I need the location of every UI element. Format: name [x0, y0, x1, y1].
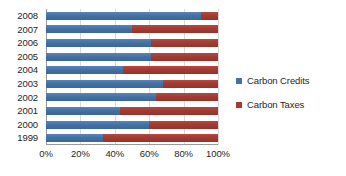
y-axis-tick-label: 2003: [0, 77, 42, 91]
bar-segment-carbon-credits[interactable]: [46, 107, 120, 115]
bar-segment-carbon-taxes[interactable]: [149, 121, 218, 129]
legend-swatch-icon: [236, 102, 242, 108]
y-axis-tick-label: 2000: [0, 118, 42, 132]
plot-area: [46, 9, 218, 145]
bar-segment-carbon-taxes[interactable]: [151, 39, 218, 47]
bar-track: [46, 121, 218, 129]
bar-track: [46, 66, 218, 74]
bar-row[interactable]: [46, 91, 218, 105]
bar-track: [46, 107, 218, 115]
bar-row[interactable]: [46, 131, 218, 145]
bar-segment-carbon-credits[interactable]: [46, 39, 151, 47]
bar-track: [46, 80, 218, 88]
y-axis-category-labels: 2008200720062005200420032002200120001999: [0, 9, 42, 145]
chart-legend: Carbon CreditsCarbon Taxes: [236, 75, 310, 110]
bar-track: [46, 93, 218, 101]
bar-track: [46, 12, 218, 20]
bar-segment-carbon-taxes[interactable]: [103, 134, 218, 142]
bar-row[interactable]: [46, 23, 218, 37]
y-axis-tick-label: 2004: [0, 63, 42, 77]
bar-row[interactable]: [46, 9, 218, 23]
y-axis-tick-label: 2002: [0, 91, 42, 105]
bar-segment-carbon-taxes[interactable]: [156, 93, 218, 101]
bar-segment-carbon-credits[interactable]: [46, 121, 149, 129]
x-axis-tick-label: 0%: [39, 148, 53, 159]
bar-segment-carbon-taxes[interactable]: [132, 25, 218, 33]
bar-track: [46, 134, 218, 142]
stacked-bar-chart: 2008200720062005200420032002200120001999…: [0, 0, 346, 176]
bar-row[interactable]: [46, 118, 218, 132]
legend-item[interactable]: Carbon Credits: [236, 75, 310, 86]
bar-row[interactable]: [46, 36, 218, 50]
y-axis-tick-label: 2001: [0, 104, 42, 118]
legend-item-label: Carbon Taxes: [247, 99, 304, 110]
bar-segment-carbon-taxes[interactable]: [151, 53, 218, 61]
x-axis-tick-labels: 0%20%40%60%80%100%: [46, 148, 218, 164]
y-axis-tick-label: 2007: [0, 23, 42, 37]
bar-segment-carbon-credits[interactable]: [46, 66, 123, 74]
bar-segment-carbon-credits[interactable]: [46, 93, 156, 101]
legend-swatch-icon: [236, 78, 242, 84]
x-axis-tick-label: 80%: [174, 148, 193, 159]
bar-segment-carbon-taxes[interactable]: [123, 66, 218, 74]
legend-item-label: Carbon Credits: [247, 75, 310, 86]
legend-item[interactable]: Carbon Taxes: [236, 99, 310, 110]
bar-segment-carbon-credits[interactable]: [46, 53, 151, 61]
y-axis-tick-label: 2006: [0, 36, 42, 50]
y-axis-tick-label: 2005: [0, 50, 42, 64]
bar-row[interactable]: [46, 50, 218, 64]
x-axis-tick-label: 60%: [140, 148, 159, 159]
bar-segment-carbon-credits[interactable]: [46, 80, 163, 88]
bar-segment-carbon-credits[interactable]: [46, 12, 201, 20]
bar-segment-carbon-credits[interactable]: [46, 134, 103, 142]
bar-track: [46, 25, 218, 33]
bar-row[interactable]: [46, 63, 218, 77]
bar-track: [46, 39, 218, 47]
x-axis-tick-label: 100%: [206, 148, 230, 159]
gridline: [218, 9, 219, 145]
bar-segment-carbon-taxes[interactable]: [163, 80, 218, 88]
bar-track: [46, 53, 218, 61]
y-axis-tick-label: 1999: [0, 131, 42, 145]
y-axis-tick-label: 2008: [0, 9, 42, 23]
bar-row[interactable]: [46, 77, 218, 91]
bar-row[interactable]: [46, 104, 218, 118]
bar-segment-carbon-taxes[interactable]: [120, 107, 218, 115]
bar-series-group: [46, 9, 218, 145]
bar-segment-carbon-taxes[interactable]: [201, 12, 218, 20]
x-axis-tick-label: 20%: [71, 148, 90, 159]
bar-segment-carbon-credits[interactable]: [46, 25, 132, 33]
x-axis-tick-label: 40%: [105, 148, 124, 159]
